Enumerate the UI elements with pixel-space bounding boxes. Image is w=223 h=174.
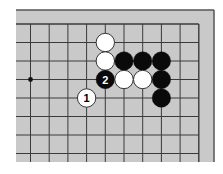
white-stone: [96, 52, 114, 70]
black-stone: [152, 52, 170, 70]
go-board: 21: [0, 0, 223, 174]
black-stone-move-2: 2: [96, 70, 114, 88]
star-point-icon: [28, 77, 33, 82]
white-stone-icon: [134, 70, 152, 88]
white-stone-icon: [96, 52, 114, 70]
black-stone-icon: [134, 52, 152, 70]
go-diagram: 21: [0, 0, 223, 174]
black-stone-icon: [152, 70, 170, 88]
white-stone: [115, 70, 133, 88]
black-stone-icon: [115, 52, 133, 70]
white-stone-icon: [96, 33, 114, 51]
white-stone-icon: [115, 70, 133, 88]
star-points: [28, 77, 33, 82]
white-stone-move-1: 1: [77, 89, 95, 107]
black-stone: [152, 70, 170, 88]
black-stone: [134, 52, 152, 70]
black-stone-icon: [152, 89, 170, 107]
move-number: 1: [84, 92, 90, 104]
black-stone-icon: [152, 52, 170, 70]
white-stone: [134, 70, 152, 88]
black-stone: [152, 89, 170, 107]
black-stone: [115, 52, 133, 70]
move-number: 2: [102, 74, 108, 86]
board-background: [16, 10, 214, 162]
white-stone: [96, 33, 114, 51]
